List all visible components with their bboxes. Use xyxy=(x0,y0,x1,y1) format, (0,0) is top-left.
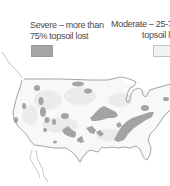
legend-moderate-label: Moderate – 25-75% topsoil lost xyxy=(111,19,170,41)
legend-severe-label: Severe – more than 75% topsoil lost xyxy=(30,20,104,42)
legend-severe-line1: Severe – more than xyxy=(30,20,104,31)
legend-severe-line2: 75% topsoil lost xyxy=(30,31,104,42)
legend-moderate-line2: topsoil lost xyxy=(111,30,170,41)
legend-moderate-line1: Moderate – 25-75% xyxy=(111,19,170,30)
legend-moderate-swatch xyxy=(153,45,170,57)
legend-severe-swatch xyxy=(31,45,53,57)
